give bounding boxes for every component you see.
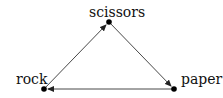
rock-paper-scissors-diagram: rock scissors paper bbox=[0, 0, 223, 98]
label-rock: rock bbox=[16, 71, 48, 87]
label-scissors: scissors bbox=[89, 4, 145, 20]
edge-scissors-to-paper bbox=[109, 22, 171, 86]
node-rock bbox=[41, 86, 47, 92]
node-paper bbox=[171, 86, 177, 92]
label-paper: paper bbox=[181, 71, 223, 87]
edge-rock-to-scissors bbox=[44, 25, 106, 89]
node-scissors bbox=[106, 19, 112, 25]
